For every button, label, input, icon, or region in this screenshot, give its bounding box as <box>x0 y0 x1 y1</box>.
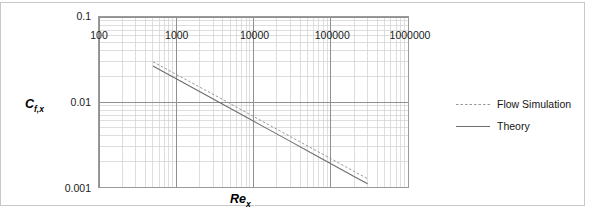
legend-label: Flow Simulation <box>497 99 571 110</box>
x-tick-label: 100000 <box>315 30 350 41</box>
y-tick-label: 0.001 <box>41 183 91 194</box>
y-axis-title-subscript: f,x <box>34 104 44 114</box>
x-axis-title-main: Re <box>230 192 246 206</box>
x-tick-label: 100 <box>90 30 108 41</box>
x-tick-label: 10000 <box>240 30 269 41</box>
x-tick-label: 1000000 <box>390 30 431 41</box>
y-axis-title: Cf,x <box>25 98 44 113</box>
legend-item: Theory <box>456 115 581 137</box>
legend-swatch-solid <box>456 126 490 127</box>
y-tick-label: 0.01 <box>41 97 91 108</box>
series-line-0 <box>153 62 368 179</box>
legend-item: Flow Simulation <box>456 93 581 115</box>
chart-legend: Flow SimulationTheory <box>456 93 581 137</box>
plot-area <box>98 16 409 188</box>
legend-swatch-dashed <box>456 104 490 105</box>
x-tick-label: 1000 <box>165 30 188 41</box>
legend-label: Theory <box>497 121 530 132</box>
series-line-1 <box>153 66 368 184</box>
x-axis-title: Rex <box>230 193 251 208</box>
x-axis-title-subscript: x <box>246 199 251 209</box>
data-curves <box>99 17 408 187</box>
y-axis-title-main: C <box>25 97 34 111</box>
figure-container: 1001000100001000001000000 0.10.010.001 C… <box>0 2 585 206</box>
y-tick-label: 0.1 <box>41 11 91 22</box>
